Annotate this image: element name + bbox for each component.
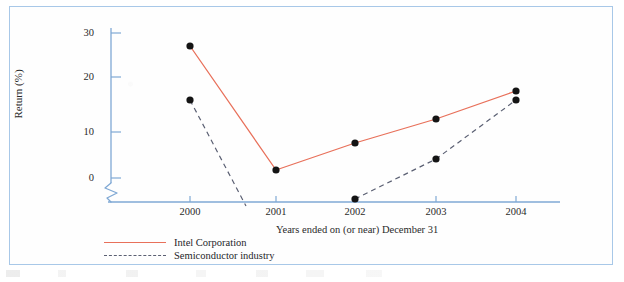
series-line-intel-corporation [190,46,516,170]
data-point-semiconductor-2000 [186,96,193,103]
chart-legend: Intel Corporation Semiconductor industry [104,236,275,262]
series-line-semiconductor-industry-segment-1 [190,100,246,206]
return-comparison-line-chart [0,0,624,282]
data-point-intel-2003 [432,115,439,122]
data-point-intel-2004 [512,87,519,94]
y-tick-label-30: 30 [68,27,94,38]
x-tick-label-2002: 2002 [335,206,375,217]
data-point-semiconductor-2004 [512,96,519,103]
y-axis-break-symbol [105,183,117,202]
y-axis-title: Return (%) [12,54,24,134]
data-point-intel-2002 [351,139,358,146]
x-tick-label-2000: 2000 [170,206,210,217]
data-point-semiconductor-2002 [351,195,358,202]
x-tick-label-2001: 2001 [256,206,296,217]
legend-label-semiconductor-industry: Semiconductor industry [174,249,275,262]
legend-swatch-dashed-line-icon [104,255,166,256]
data-point-intel-2000 [186,42,193,49]
data-point-intel-2001 [272,166,279,173]
x-tick-label-2003: 2003 [416,206,456,217]
y-tick-label-10: 10 [68,126,94,137]
data-point-semiconductor-2003 [432,155,439,162]
legend-item-semiconductor-industry: Semiconductor industry [104,249,275,262]
series-line-semiconductor-industry-segment-2 [355,100,516,199]
y-tick-label-0: 0 [68,172,94,183]
legend-item-intel-corporation: Intel Corporation [104,236,275,249]
x-tick-label-2004: 2004 [496,206,536,217]
x-axis-title: Years ended on (or near) December 31 [276,224,438,235]
y-tick-label-20: 20 [68,71,94,82]
legend-swatch-solid-line-icon [104,242,166,243]
legend-label-intel-corporation: Intel Corporation [174,236,247,249]
